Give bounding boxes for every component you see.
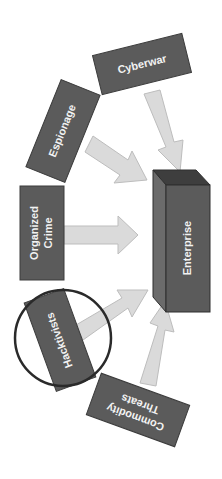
enterprise-box: Enterprise	[153, 170, 210, 312]
cyberwar-box: Cyberwar	[93, 33, 192, 94]
arrow-organized-crime-to-enterprise	[64, 216, 138, 254]
commodity-threats-box: Commodity Threats	[86, 373, 189, 446]
arrow-commodity-to-enterprise	[140, 301, 174, 386]
enterprise-label: Enterprise	[181, 221, 193, 275]
organized-crime-label-line1: Organized	[28, 206, 40, 260]
arrow-espionage-to-enterprise	[85, 136, 147, 183]
arrow-cyberwar-to-enterprise	[144, 90, 183, 172]
organized-crime-label-line2: Crime	[42, 217, 54, 248]
threat-diagram: Enterprise Cyberwar Espionage Organized …	[0, 0, 222, 479]
enterprise-box-side	[153, 170, 166, 312]
espionage-box: Espionage	[26, 80, 100, 183]
organized-crime-box: Organized Crime	[20, 186, 64, 280]
